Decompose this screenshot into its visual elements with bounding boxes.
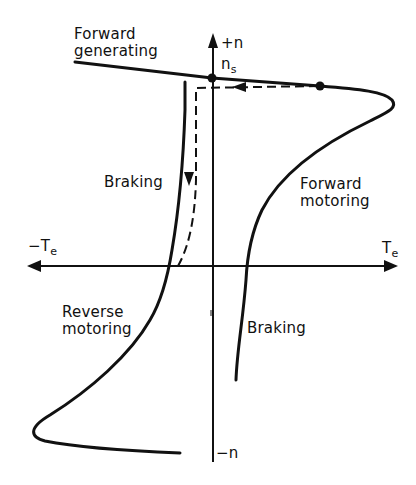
- reverse-curve: [34, 82, 185, 453]
- up-arrow-icon: [208, 33, 218, 48]
- reverse-motoring-label-1: Reverse: [62, 304, 124, 321]
- forward-generating-label-1: Forward: [74, 26, 136, 43]
- negative-torque-symbol: −T: [28, 237, 50, 255]
- torque-label: Te: [382, 240, 398, 258]
- negative-speed-label: −n: [216, 445, 238, 462]
- negative-torque-subscript: e: [50, 245, 57, 258]
- braking-upper-label: Braking: [104, 174, 163, 191]
- speed-axis: [208, 33, 218, 462]
- braking-lower-label: Braking: [247, 320, 306, 337]
- left-arrow-icon: [27, 260, 41, 272]
- positive-speed-label: +n: [221, 35, 243, 52]
- forward-generating-label-2: generating: [74, 43, 158, 60]
- reverse-motoring-label-2: motoring: [62, 321, 132, 338]
- torque-symbol: T: [382, 239, 391, 257]
- forward-motoring-label-1: Forward: [300, 176, 362, 193]
- sync-speed-subscript: s: [231, 63, 237, 76]
- sync-speed-point: [208, 74, 217, 83]
- diagram-canvas: [0, 0, 416, 485]
- left-arrow-icon: [232, 82, 246, 92]
- negative-torque-label: −Te: [28, 238, 57, 256]
- operating-point: [316, 82, 325, 91]
- right-arrow-icon: [384, 260, 398, 272]
- forward-motoring-label-2: motoring: [300, 193, 370, 210]
- sync-speed-label: ns: [221, 56, 237, 74]
- down-arrow-icon: [184, 172, 194, 186]
- transition-dashed-path: [178, 86, 318, 266]
- sync-speed-symbol: n: [221, 55, 231, 73]
- torque-subscript: e: [391, 247, 398, 260]
